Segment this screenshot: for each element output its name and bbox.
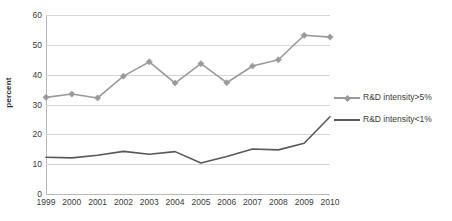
series-line: [46, 117, 330, 163]
x-tick-label-2008: 2008: [269, 198, 288, 207]
x-tick-label-2000: 2000: [62, 198, 81, 207]
data-point-marker: [43, 94, 49, 100]
data-point-marker: [69, 91, 75, 97]
x-tick-label-2002: 2002: [114, 198, 133, 207]
series-line: [46, 35, 330, 98]
y-tick-label-40: 40: [2, 70, 42, 79]
legend-item-1[interactable]: R&D intensity>5%: [334, 88, 452, 108]
x-tick-label-2007: 2007: [243, 198, 262, 207]
chart-legend: R&D intensity>5%R&D intensity<1%: [334, 88, 452, 132]
series-layer: [46, 15, 330, 194]
legend-label: R&D intensity<1%: [363, 115, 432, 124]
y-tick-label-10: 10: [2, 160, 42, 169]
legend-swatch-icon: [334, 92, 360, 104]
y-tick-label-50: 50: [2, 41, 42, 50]
plot-area: 0102030405060: [46, 15, 330, 194]
legend-item-2[interactable]: R&D intensity<1%: [334, 110, 452, 130]
x-tick-label-2005: 2005: [191, 198, 210, 207]
x-tick-label-2006: 2006: [217, 198, 236, 207]
data-point-marker: [327, 34, 333, 40]
x-tick-label-2010: 2010: [321, 198, 340, 207]
gridline-0: [46, 194, 330, 195]
x-tick-label-2001: 2001: [88, 198, 107, 207]
y-tick-label-60: 60: [2, 11, 42, 20]
x-axis-tick-labels: 1999200020012002200320042005200620072008…: [46, 198, 330, 216]
legend-label: R&D intensity>5%: [363, 93, 432, 102]
y-tick-label-30: 30: [2, 100, 42, 109]
x-tick-label-2003: 2003: [140, 198, 159, 207]
x-tick-label-1999: 1999: [37, 198, 56, 207]
series-1: [43, 32, 333, 101]
line-chart: percent 0102030405060 199920002001200220…: [0, 0, 452, 221]
y-tick-label-20: 20: [2, 130, 42, 139]
series-2: [46, 117, 330, 163]
legend-swatch-icon: [334, 114, 360, 126]
x-tick-label-2004: 2004: [166, 198, 185, 207]
x-tick-label-2009: 2009: [295, 198, 314, 207]
